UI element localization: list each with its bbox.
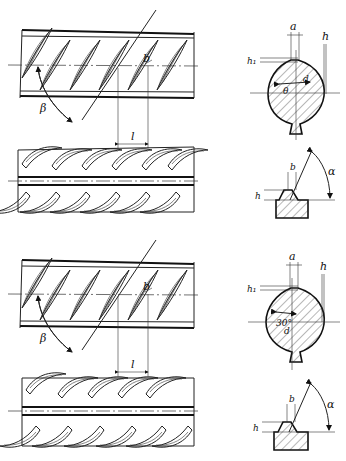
label-beta: β <box>39 332 46 345</box>
crescent-view-1 <box>0 147 208 213</box>
label-theta: θ <box>283 86 289 96</box>
label-h: h <box>322 30 329 43</box>
rebar-drawing: β b l <box>0 0 346 461</box>
label-rib-b: b <box>289 394 295 404</box>
side-view-2: β b l <box>8 240 200 376</box>
label-a: a <box>290 20 297 33</box>
label-a: a <box>289 250 296 263</box>
label-h: h <box>320 260 327 273</box>
label-d: d <box>284 326 290 336</box>
crescent-view-2 <box>0 373 200 447</box>
label-l: l <box>131 358 135 371</box>
label-beta: β <box>39 102 46 115</box>
label-alpha: α <box>327 398 335 411</box>
label-h1: h₁ <box>247 56 256 66</box>
label-alpha: α <box>328 165 336 178</box>
label-rib-b: b <box>290 162 296 172</box>
variant-2: β b l <box>0 240 340 450</box>
cross-section-1: a h₁ h θ d <box>247 20 340 140</box>
label-l: l <box>131 130 135 143</box>
label-d: d <box>303 74 309 84</box>
cross-section-2: a h₁ h 30° d <box>247 250 340 370</box>
label-rib-h: h <box>253 423 259 433</box>
label-h1: h₁ <box>247 284 256 294</box>
rib-profile-2: h b α <box>253 382 335 450</box>
rib-profile-1: h b α <box>255 150 336 218</box>
label-rib-h: h <box>255 191 261 201</box>
variant-1: β b l <box>0 10 340 218</box>
side-view-1: β b l <box>8 10 200 148</box>
